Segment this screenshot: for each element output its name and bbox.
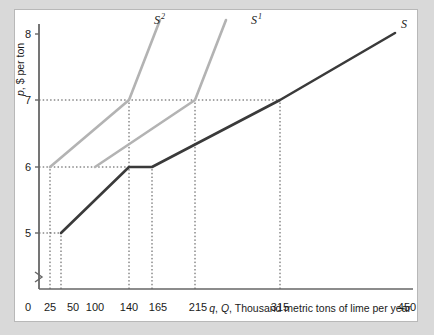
curve-labels: S 2 S 1 S xyxy=(154,12,407,31)
curve-s1 xyxy=(95,20,226,167)
curve-s2 xyxy=(50,20,160,167)
chart-figure: S 2 S 1 S 8 7 6 5 0 25 50 100 140 165 21… xyxy=(14,9,418,322)
curve-s xyxy=(61,33,395,233)
curve-label-s1: S xyxy=(251,13,257,27)
curve-label-s1-superscript: 1 xyxy=(258,12,262,21)
curve-label-s2-superscript: 2 xyxy=(161,12,165,21)
axes xyxy=(35,24,413,289)
x-axis-title-rest: , Thousand metric tons of lime per year xyxy=(229,302,411,314)
supply-curve-chart: S 2 S 1 S 8 7 6 5 0 25 50 100 140 165 21… xyxy=(15,10,417,321)
y-axis-title: p, $ per ton xyxy=(15,43,26,97)
y-tick-label-6: 6 xyxy=(25,161,31,173)
curve-label-s: S xyxy=(401,17,407,31)
y-tick-label-5: 5 xyxy=(25,227,31,239)
curve-label-s2: S xyxy=(154,13,160,27)
y-tick-label-8: 8 xyxy=(25,28,31,40)
x-axis-title-svg: q, Q, Thousand metric tons of lime per y… xyxy=(15,296,417,318)
x-axis-title: q, Q, Thousand metric tons of lime per y… xyxy=(209,302,411,314)
x-axis-title-Q: Q xyxy=(221,302,229,314)
y-axis-title-rest: , $ per ton xyxy=(15,43,26,90)
gridlines xyxy=(39,100,280,289)
